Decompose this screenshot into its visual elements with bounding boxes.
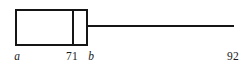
label-maximum: 92 <box>227 51 239 63</box>
right-whisker-line <box>88 25 234 27</box>
label-upper-quartile: b <box>88 51 94 63</box>
label-lower-quartile: a <box>14 51 20 63</box>
label-median: 71 <box>66 51 78 63</box>
median-line <box>72 9 74 46</box>
plot-area <box>0 0 245 65</box>
interquartile-box <box>15 9 88 46</box>
box-plot-figure: a 71 b 92 <box>0 0 245 65</box>
